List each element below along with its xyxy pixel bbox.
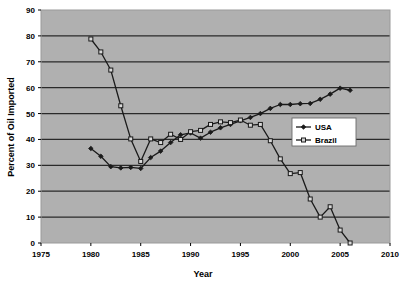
- marker-brazil-1990: [189, 130, 193, 134]
- marker-brazil-1997: [258, 122, 262, 126]
- legend-label-usa: USA: [315, 123, 332, 132]
- ytick-label-60: 60: [26, 84, 35, 93]
- xtick-label-2005: 2005: [331, 250, 349, 259]
- chart-legend: USABrazil: [292, 118, 356, 146]
- marker-brazil-1988: [169, 132, 173, 136]
- marker-brazil-1993: [218, 120, 222, 124]
- x-axis-title: Year: [193, 269, 213, 279]
- ytick-label-90: 90: [26, 6, 35, 15]
- marker-brazil-1982: [109, 68, 113, 72]
- xtick-label-1985: 1985: [132, 250, 150, 259]
- marker-brazil-2005: [338, 228, 342, 232]
- oil-import-line-chart: 0102030405060708090197519801985199019952…: [0, 0, 407, 287]
- ytick-label-10: 10: [26, 213, 35, 222]
- marker-brazil-1999: [278, 157, 282, 161]
- marker-brazil-1986: [149, 137, 153, 141]
- ytick-label-50: 50: [26, 110, 35, 119]
- ytick-label-70: 70: [26, 58, 35, 67]
- marker-brazil-1998: [268, 139, 272, 143]
- marker-brazil-1980: [89, 37, 93, 41]
- xtick-label-1980: 1980: [82, 250, 100, 259]
- legend-marker-brazil: [302, 138, 306, 142]
- ytick-label-80: 80: [26, 32, 35, 41]
- marker-brazil-2006: [348, 241, 352, 245]
- marker-brazil-1991: [199, 128, 203, 132]
- legend-label-brazil: Brazil: [315, 136, 337, 145]
- marker-brazil-1996: [248, 123, 252, 127]
- marker-brazil-1984: [129, 137, 133, 141]
- marker-brazil-2001: [298, 171, 302, 175]
- marker-brazil-1994: [228, 121, 232, 125]
- marker-brazil-2003: [318, 215, 322, 219]
- marker-brazil-1995: [238, 118, 242, 122]
- marker-brazil-1987: [159, 141, 163, 145]
- marker-brazil-1992: [209, 122, 213, 126]
- marker-brazil-2004: [328, 205, 332, 209]
- ytick-label-20: 20: [26, 187, 35, 196]
- ytick-label-30: 30: [26, 161, 35, 170]
- ytick-label-0: 0: [31, 239, 36, 248]
- xtick-label-1975: 1975: [32, 250, 50, 259]
- ytick-label-40: 40: [26, 135, 35, 144]
- y-axis-title: Percent of Oil Imported: [6, 77, 16, 177]
- marker-brazil-1983: [119, 104, 123, 108]
- marker-brazil-2000: [288, 172, 292, 176]
- xtick-label-1990: 1990: [182, 250, 200, 259]
- marker-brazil-1981: [99, 50, 103, 54]
- xtick-label-1995: 1995: [232, 250, 250, 259]
- xtick-label-2000: 2000: [281, 250, 299, 259]
- chart-canvas: 0102030405060708090197519801985199019952…: [0, 0, 407, 287]
- marker-brazil-1985: [139, 159, 143, 163]
- xtick-label-2010: 2010: [381, 250, 399, 259]
- marker-brazil-2002: [308, 197, 312, 201]
- marker-brazil-1989: [179, 137, 183, 141]
